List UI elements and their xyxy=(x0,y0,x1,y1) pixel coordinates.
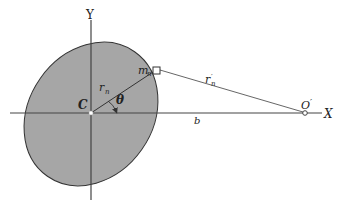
x-axis-label: X xyxy=(323,107,333,121)
radius-line-rn-prime xyxy=(160,70,303,112)
svg-text:′: ′ xyxy=(310,98,312,108)
svg-text:n: n xyxy=(105,88,110,96)
center-label-c: C xyxy=(78,98,88,112)
mass-element-square xyxy=(153,67,160,74)
mass-label: m n xyxy=(138,64,152,78)
svg-text:O: O xyxy=(301,99,310,112)
external-point-label: O ′ xyxy=(301,98,312,112)
svg-text:n: n xyxy=(147,70,152,78)
svg-text:n: n xyxy=(211,80,216,88)
center-point-c xyxy=(89,111,93,115)
radius-label-rn-prime: r ′ n xyxy=(205,73,216,88)
y-axis-label: Y xyxy=(85,8,95,22)
diagram-canvas: Y X C m n r n θ b r ′ n O ′ xyxy=(0,0,344,208)
theta-label: θ xyxy=(116,93,124,107)
distance-label-b: b xyxy=(194,115,200,126)
